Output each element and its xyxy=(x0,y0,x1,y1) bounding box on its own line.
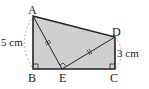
geometry-diagram: A B E C D 5 cm 3 cm xyxy=(0,0,149,89)
dimension-label-dc: 3 cm xyxy=(117,47,139,59)
label-b: B xyxy=(28,71,36,85)
label-c: C xyxy=(110,71,118,85)
label-d: D xyxy=(112,25,121,39)
dimension-label-ab: 5 cm xyxy=(1,36,23,48)
label-e: E xyxy=(59,71,66,85)
label-a: A xyxy=(28,3,37,17)
dimension-arc-ab xyxy=(25,16,34,69)
